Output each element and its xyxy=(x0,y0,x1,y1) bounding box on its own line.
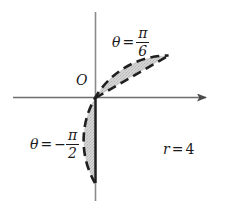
radius-equals: = xyxy=(170,141,186,157)
theta-lower-label: θ=− π 2 xyxy=(30,129,79,161)
radius-value: 4 xyxy=(185,141,194,157)
radius-label: r=4 xyxy=(163,142,194,156)
theta-lower-numerator: π xyxy=(66,128,79,144)
theta-upper-label: θ= π 6 xyxy=(112,27,149,59)
radius-variable: r xyxy=(163,141,170,157)
theta-upper-denominator: 6 xyxy=(136,43,149,59)
theta-lower-equals: = xyxy=(38,136,54,152)
polar-region-figure: O θ= π 6 θ=− π 2 r=4 xyxy=(0,0,227,210)
theta-upper-equals: = xyxy=(120,34,136,50)
theta-upper-fraction: π 6 xyxy=(136,26,149,58)
theta-lower-fraction: π 2 xyxy=(66,128,79,160)
boundary-ray-theta-pi-over-6 xyxy=(96,56,169,99)
origin-label: O xyxy=(76,73,87,87)
theta-upper-numerator: π xyxy=(136,26,149,42)
theta-lower-sign: − xyxy=(54,136,66,152)
theta-lower-denominator: 2 xyxy=(66,145,79,161)
